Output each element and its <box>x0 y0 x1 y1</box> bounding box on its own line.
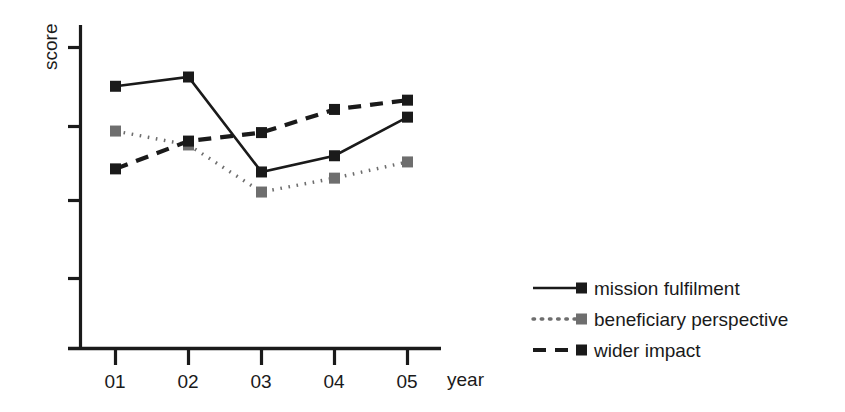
data-point-marker <box>110 126 121 137</box>
data-point-marker <box>110 163 121 174</box>
data-point-marker <box>329 104 340 115</box>
chart-container: 01 02 03 04 05 score year mission fulfil… <box>0 0 845 412</box>
data-point-marker <box>402 95 413 106</box>
y-axis-title: score <box>40 24 61 70</box>
data-point-marker <box>402 112 413 123</box>
legend-label: mission fulfilment <box>594 278 740 299</box>
legend-swatch-marker <box>576 345 587 356</box>
legend-swatch-marker <box>576 314 587 325</box>
line-chart: 01 02 03 04 05 score year mission fulfil… <box>0 0 845 412</box>
data-point-marker <box>256 166 267 177</box>
data-point-marker <box>329 173 340 184</box>
x-tick-label-0: 01 <box>104 371 125 392</box>
data-point-marker <box>256 127 267 138</box>
series-line-0 <box>116 77 408 172</box>
x-tick-label-3: 04 <box>323 371 345 392</box>
legend-label: beneficiary perspective <box>594 309 788 330</box>
data-point-marker <box>110 81 121 92</box>
data-point-marker <box>402 156 413 167</box>
chart-legend: mission fulfilmentbeneficiary perspectiv… <box>533 278 788 361</box>
x-tick-label-2: 03 <box>250 371 271 392</box>
legend-swatch-marker <box>576 283 587 294</box>
data-point-marker <box>329 150 340 161</box>
legend-item-mission-fulfilment[interactable]: mission fulfilment <box>533 278 740 299</box>
series-layer <box>110 72 413 198</box>
legend-item-beneficiary-perspective[interactable]: beneficiary perspective <box>533 309 788 330</box>
series-wider-impact <box>110 95 413 175</box>
data-point-marker <box>183 136 194 147</box>
x-axis-title: year <box>447 369 485 390</box>
x-tick-label-1: 02 <box>177 371 198 392</box>
x-axis-ticks <box>116 348 408 365</box>
legend-item-wider-impact[interactable]: wider impact <box>533 340 701 361</box>
legend-label: wider impact <box>593 340 701 361</box>
data-point-marker <box>256 187 267 198</box>
x-axis-tick-labels: 01 02 03 04 05 <box>104 371 417 392</box>
x-tick-label-4: 05 <box>396 371 417 392</box>
data-point-marker <box>183 72 194 83</box>
series-mission-fulfilment <box>110 72 413 178</box>
